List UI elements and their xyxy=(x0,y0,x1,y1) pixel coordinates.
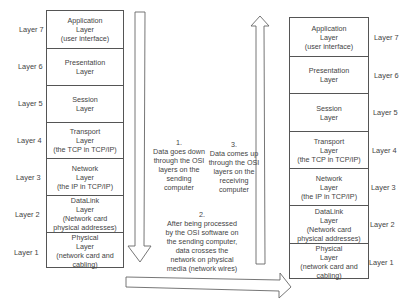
receiving-layer-6: Presentation Layer xyxy=(290,56,368,93)
receiving-level-label: Layer 2 xyxy=(370,220,395,229)
sending-level-label: Layer 7 xyxy=(19,25,44,34)
sending-layer-6: Presentation Layer xyxy=(47,48,123,85)
sending-layer-3: Network Layer (the IP in TCP/IP) xyxy=(47,158,123,195)
sending-layer-5: Session Layer xyxy=(47,85,123,122)
sending-layer-1: Physical Layer (network card and cabling… xyxy=(47,232,123,269)
sending-level-label: Layer 1 xyxy=(14,248,39,257)
receiving-level-label: Layer 3 xyxy=(371,183,396,192)
right-arrow-icon xyxy=(126,273,291,298)
sending-level-label: Layer 4 xyxy=(17,136,42,145)
receiving-layer-7: Application Layer (user interface) xyxy=(290,18,368,56)
sending-osi-stack: Application Layer (user interface) Prese… xyxy=(46,10,124,268)
receiving-level-label: Layer 4 xyxy=(372,146,397,155)
step2-note: 2. After being processed by the OSI soft… xyxy=(156,210,248,273)
step3-note: 3. Data comes up through the OSI layers … xyxy=(204,140,264,194)
receiving-level-label: Layer 7 xyxy=(374,33,399,42)
receiving-layer-1: Physical Layer (network card and cabling… xyxy=(290,243,368,280)
receiving-layer-2: DataLink Layer (Network card physical ad… xyxy=(290,205,368,243)
down-arrow-icon xyxy=(128,12,151,262)
receiving-layer-3: Network Layer (the IP in TCP/IP) xyxy=(290,168,368,205)
receiving-level-label: Layer 6 xyxy=(374,71,399,80)
sending-layer-2: DataLink Layer (Network card physical ad… xyxy=(47,195,123,232)
step1-note: 1. Data goes down through the OSI layers… xyxy=(147,138,211,192)
receiving-level-label: Layer 5 xyxy=(373,108,398,117)
receiving-layer-4: Transport Layer (the TCP in TCP/IP) xyxy=(290,131,368,168)
sending-layer-4: Transport Layer (the TCP in TCP/IP) xyxy=(47,122,123,158)
sending-level-label: Layer 5 xyxy=(18,99,43,108)
receiving-layer-5: Session Layer xyxy=(290,93,368,131)
receiving-level-label: Layer 1 xyxy=(369,258,394,267)
sending-layer-7: Application Layer (user interface) xyxy=(47,11,123,48)
sending-level-label: Layer 6 xyxy=(18,62,43,71)
receiving-osi-stack: Application Layer (user interface) Prese… xyxy=(289,17,369,279)
sending-level-label: Layer 3 xyxy=(16,173,41,182)
sending-level-label: Layer 2 xyxy=(15,210,40,219)
